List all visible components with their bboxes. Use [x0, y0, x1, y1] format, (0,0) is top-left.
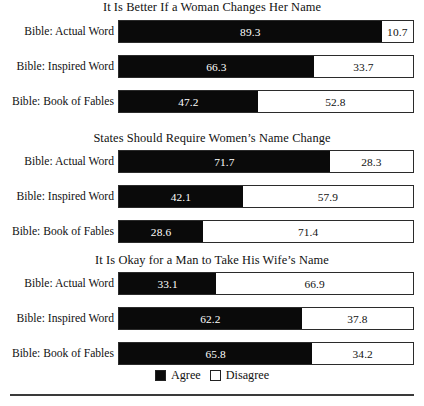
- category-label: Bible: Inspired Word: [0, 58, 114, 75]
- stacked-bar-track[interactable]: 33.1 66.9: [118, 272, 414, 295]
- bar-value-agree: 89.3: [240, 26, 260, 38]
- bar-segment-agree[interactable]: 28.6: [119, 221, 203, 242]
- stacked-bar-track[interactable]: 62.2 37.8: [118, 307, 414, 330]
- legend-swatch-agree-icon: [155, 370, 166, 381]
- category-label: Bible: Actual Word: [0, 275, 114, 292]
- bottom-divider: [10, 394, 414, 396]
- legend-label-disagree: Disagree: [226, 369, 269, 382]
- category-label: Bible: Book of Fables: [0, 93, 114, 110]
- bar-segment-disagree[interactable]: 66.9: [216, 273, 413, 294]
- bar-value-agree: 66.3: [206, 61, 226, 73]
- bar-segment-disagree[interactable]: 33.7: [314, 56, 413, 77]
- panel-title: States Should Require Women’s Name Chang…: [0, 131, 424, 145]
- bar-value-disagree: 66.9: [304, 278, 324, 290]
- bar-segment-disagree[interactable]: 34.2: [312, 343, 413, 364]
- bar-row: Bible: Book of Fables 28.6 71.4: [0, 220, 424, 243]
- bar-segment-agree[interactable]: 33.1: [119, 273, 216, 294]
- stacked-bar-track[interactable]: 65.8 34.2: [118, 342, 414, 365]
- stacked-bar-track[interactable]: 42.1 57.9: [118, 185, 414, 208]
- stacked-bar-track[interactable]: 66.3 33.7: [118, 55, 414, 78]
- bar-value-disagree: 71.4: [298, 226, 318, 238]
- chart-legend: Agree Disagree: [0, 369, 424, 382]
- bar-value-agree: 47.2: [178, 96, 198, 108]
- category-label: Bible: Book of Fables: [0, 223, 114, 240]
- bar-segment-agree[interactable]: 71.7: [119, 151, 330, 172]
- stacked-bar-track[interactable]: 47.2 52.8: [118, 90, 414, 113]
- bar-value-agree: 33.1: [157, 278, 177, 290]
- panel-title: It Is Better If a Woman Changes Her Name: [0, 0, 424, 14]
- bar-segment-agree[interactable]: 66.3: [119, 56, 314, 77]
- stacked-bar-track[interactable]: 89.3 10.7: [118, 20, 414, 43]
- bar-value-disagree: 10.7: [387, 26, 407, 38]
- bar-value-disagree: 28.3: [361, 156, 381, 168]
- bar-row: Bible: Actual Word 89.3 10.7: [0, 20, 424, 43]
- chart-panel-1: It Is Better If a Woman Changes Her Name…: [0, 0, 424, 133]
- bar-segment-disagree[interactable]: 37.8: [302, 308, 413, 329]
- stacked-bar-track[interactable]: 28.6 71.4: [118, 220, 414, 243]
- bar-row: Bible: Inspired Word 42.1 57.9: [0, 185, 424, 208]
- legend-item-agree[interactable]: Agree: [155, 369, 201, 382]
- category-label: Bible: Book of Fables: [0, 345, 114, 362]
- bar-segment-agree[interactable]: 47.2: [119, 91, 258, 112]
- bar-row: Bible: Book of Fables 47.2 52.8: [0, 90, 424, 113]
- bar-segment-agree[interactable]: 62.2: [119, 308, 302, 329]
- category-label: Bible: Actual Word: [0, 153, 114, 170]
- category-label: Bible: Inspired Word: [0, 310, 114, 327]
- bar-value-disagree: 37.8: [347, 313, 367, 325]
- bar-segment-disagree[interactable]: 28.3: [330, 151, 413, 172]
- bar-value-disagree: 34.2: [353, 348, 373, 360]
- bar-segment-disagree[interactable]: 52.8: [258, 91, 413, 112]
- stacked-bar-chart-figure: It Is Better If a Woman Changes Her Name…: [0, 0, 424, 406]
- bar-value-disagree: 33.7: [353, 61, 373, 73]
- bar-segment-agree[interactable]: 65.8: [119, 343, 312, 364]
- chart-panel-3: It Is Okay for a Man to Take His Wife’s …: [0, 253, 424, 365]
- legend-swatch-disagree-icon: [210, 370, 221, 381]
- bar-row: Bible: Book of Fables 65.8 34.2: [0, 342, 424, 365]
- bar-value-disagree: 57.9: [318, 191, 338, 203]
- bar-segment-agree[interactable]: 42.1: [119, 186, 243, 207]
- bar-segment-disagree[interactable]: 10.7: [382, 21, 413, 42]
- bar-segment-agree[interactable]: 89.3: [119, 21, 382, 42]
- stacked-bar-track[interactable]: 71.7 28.3: [118, 150, 414, 173]
- chart-panel-2: States Should Require Women’s Name Chang…: [0, 131, 424, 253]
- bar-value-disagree: 52.8: [325, 96, 345, 108]
- bar-row: Bible: Actual Word 33.1 66.9: [0, 272, 424, 295]
- bar-segment-disagree[interactable]: 71.4: [203, 221, 413, 242]
- bar-row: Bible: Actual Word 71.7 28.3: [0, 150, 424, 173]
- bar-value-agree: 42.1: [171, 191, 191, 203]
- bar-segment-disagree[interactable]: 57.9: [243, 186, 413, 207]
- bar-value-agree: 65.8: [206, 348, 226, 360]
- legend-label-agree: Agree: [171, 369, 201, 382]
- category-label: Bible: Actual Word: [0, 23, 114, 40]
- bar-value-agree: 28.6: [151, 226, 171, 238]
- bar-value-agree: 62.2: [200, 313, 220, 325]
- bar-value-agree: 71.7: [214, 156, 234, 168]
- bar-row: Bible: Inspired Word 62.2 37.8: [0, 307, 424, 330]
- bar-row: Bible: Inspired Word 66.3 33.7: [0, 55, 424, 78]
- category-label: Bible: Inspired Word: [0, 188, 114, 205]
- panel-title: It Is Okay for a Man to Take His Wife’s …: [0, 253, 424, 267]
- legend-item-disagree[interactable]: Disagree: [210, 369, 269, 382]
